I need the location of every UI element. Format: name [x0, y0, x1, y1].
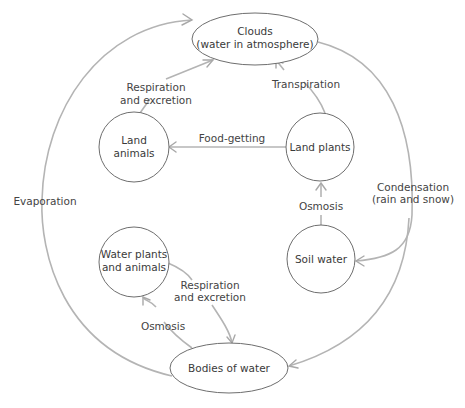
node-soil-water: Soil water — [287, 225, 355, 293]
water-cycle-diagram: Clouds (water in atmosphere) Land animal… — [0, 0, 465, 408]
clouds-label-line2: (water in atmosphere) — [196, 38, 313, 50]
node-land-plants: Land plants — [286, 113, 354, 181]
respiration-land-label-line1: Respiration — [126, 81, 185, 93]
respiration-land-label-line2: and excretion — [120, 94, 192, 106]
transpiration-label: Transpiration — [271, 78, 340, 90]
node-water-plants-animals: Water plants and animals — [99, 227, 169, 297]
respiration-water-label-line2: and excretion — [174, 291, 246, 303]
arrowhead-icon — [182, 14, 192, 25]
water-plants-label-line1: Water plants — [101, 248, 168, 260]
land-animals-label-line2: animals — [113, 147, 154, 159]
clouds-label-line1: Clouds — [237, 25, 272, 37]
osmosis-land-label: Osmosis — [299, 200, 343, 212]
condensation-label-line1: Condensation — [377, 181, 449, 193]
land-animals-label-line1: Land — [121, 134, 147, 146]
node-clouds: Clouds (water in atmosphere) — [192, 13, 318, 65]
water-plants-label-line2: and animals — [102, 261, 166, 273]
osmosis-water-label: Osmosis — [141, 320, 185, 332]
respiration-water-label-line1: Respiration — [180, 279, 239, 291]
soil-water-label: Soil water — [295, 253, 348, 265]
node-bodies-of-water: Bodies of water — [170, 343, 288, 393]
land-plants-label: Land plants — [289, 141, 350, 153]
evaporation-label: Evaporation — [13, 195, 76, 207]
bodies-of-water-label: Bodies of water — [188, 362, 271, 374]
food-getting-label: Food-getting — [199, 132, 266, 144]
node-land-animals: Land animals — [99, 112, 169, 182]
condensation-label-line2: (rain and snow) — [372, 193, 454, 205]
